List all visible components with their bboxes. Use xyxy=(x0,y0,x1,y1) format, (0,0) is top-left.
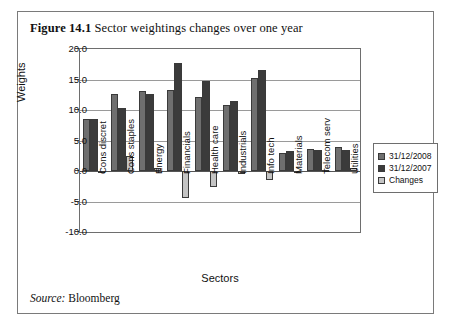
legend-item-label: 31/12/2007 xyxy=(389,163,432,173)
bar xyxy=(182,171,189,198)
bar xyxy=(223,105,230,171)
x-axis-category-label: Cons staples xyxy=(125,119,136,174)
legend-swatch-icon xyxy=(378,153,385,160)
x-axis-category-label: Materials xyxy=(293,135,304,174)
y-axis-tick-label: 20.0 xyxy=(47,43,87,54)
figure-caption: Figure 14.1 Sector weightings changes ov… xyxy=(30,21,303,36)
source-note: Source: Bloomberg xyxy=(30,292,120,304)
source-value: Bloomberg xyxy=(68,292,120,304)
y-axis-tick-label: -10.0 xyxy=(47,226,87,237)
y-axis-tick-label: 5.0 xyxy=(47,134,87,145)
x-axis-label: Sectors xyxy=(79,272,361,284)
bar xyxy=(111,94,118,171)
bar-group xyxy=(136,49,164,232)
bar xyxy=(251,78,258,171)
figure-number: Figure 14.1 xyxy=(30,21,91,35)
y-axis-tick-label: -5.0 xyxy=(47,195,87,206)
y-axis-tick-label: 0.0 xyxy=(47,165,87,176)
bar xyxy=(139,91,146,171)
bar xyxy=(335,147,342,171)
legend-item: Changes xyxy=(378,175,432,185)
bar xyxy=(167,90,174,171)
legend-item: 31/12/2007 xyxy=(378,163,432,173)
bar xyxy=(83,119,90,171)
legend-swatch-icon xyxy=(378,177,385,184)
x-axis-category-label: Info tech xyxy=(265,138,276,174)
y-axis-tick-label: 15.0 xyxy=(47,73,87,84)
x-axis-category-label: Financials xyxy=(181,131,192,174)
chart: Weights Sectors 31/12/200831/12/2007Chan… xyxy=(31,40,423,290)
legend-swatch-icon xyxy=(378,165,385,172)
x-axis-category-label: Utilities xyxy=(349,143,360,174)
bar xyxy=(195,97,202,171)
source-label: Source: xyxy=(30,292,65,304)
bar xyxy=(307,149,314,171)
legend-item: 31/12/2008 xyxy=(378,151,432,161)
figure-panel: Figure 14.1 Sector weightings changes ov… xyxy=(17,11,434,314)
legend-item-label: 31/12/2008 xyxy=(389,151,432,161)
x-axis-category-label: Cons discret xyxy=(97,121,108,174)
x-axis-category-label: Energy xyxy=(153,144,164,174)
figure-caption-text: Sector weightings changes over one year xyxy=(95,21,303,35)
plot-area xyxy=(79,48,361,233)
legend-item-label: Changes xyxy=(389,175,423,185)
x-axis-category-label: Health care xyxy=(209,125,220,174)
y-axis-tick-label: 10.0 xyxy=(47,104,87,115)
legend: 31/12/200831/12/2007Changes xyxy=(373,143,438,193)
x-axis-category-label: Telecom serv xyxy=(321,118,332,174)
y-axis-label: Weights xyxy=(15,62,27,102)
bar xyxy=(279,153,286,171)
x-axis-category-label: Industrials xyxy=(237,131,248,174)
bar-group xyxy=(332,49,360,232)
